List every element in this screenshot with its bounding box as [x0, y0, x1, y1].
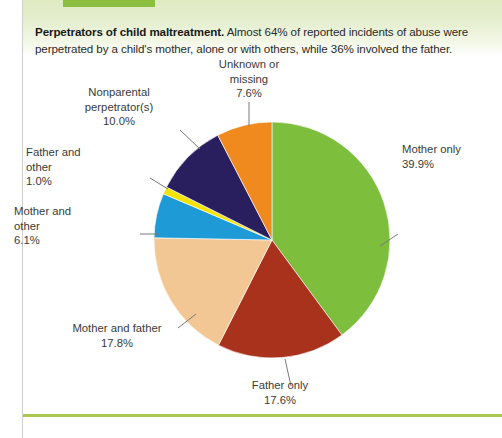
slice-label-father-only: Father only 17.6%: [219, 378, 341, 407]
caption-lead: Perpetrators of child maltreatment.: [35, 25, 224, 38]
top-accent-bar: [63, 0, 155, 7]
slice-label-father-and-other: Father and other 1.0%: [26, 145, 144, 189]
pie-chart: Mother only 39.9% Father only 17.6% Moth…: [0, 56, 502, 414]
slice-label-unknown-or-missing: Unknown or missing 7.6%: [190, 57, 308, 101]
slice-label-nonparental-perpetrators: Nonparental perpetrator(s) 10.0%: [58, 85, 180, 129]
slice-label-mother-and-other: Mother and other 6.1%: [14, 204, 138, 248]
slice-label-mother-only: Mother only 39.9%: [402, 142, 461, 171]
figure-caption: Perpetrators of child maltreatment. Almo…: [35, 23, 487, 58]
leader-line-father-and-other: [150, 178, 168, 189]
leader-line-nonparental: [180, 130, 200, 149]
pie-slices: [154, 122, 390, 358]
figure-panel: Perpetrators of child maltreatment. Almo…: [0, 0, 502, 438]
bottom-accent-rule: [23, 414, 502, 417]
slice-label-mother-and-father: Mother and father 17.8%: [55, 321, 179, 350]
